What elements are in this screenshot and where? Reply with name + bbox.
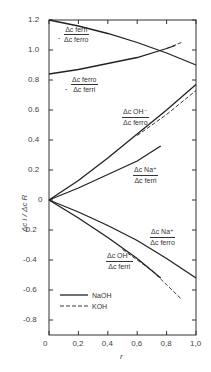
series-line: [49, 85, 196, 201]
x-tick-label: 0,8: [161, 339, 172, 348]
annotation-minus-2: -: [65, 85, 67, 92]
x-tick-label: 1,0: [190, 339, 201, 348]
y-tick-label: 0.4: [28, 135, 39, 144]
y-axis-label: Δc i / Δc R: [20, 195, 29, 232]
x-axis-label: r: [120, 352, 123, 361]
y-tick-label: -0.8: [23, 315, 37, 324]
annotation-oh-over-ferro: Δc OH⁻Δc ferro: [122, 108, 149, 126]
y-tick-label: 0: [38, 195, 42, 204]
y-tick-label: 0.8: [28, 75, 39, 84]
annotation-minus-1: -: [58, 34, 60, 41]
y-tick-label: 1.2: [28, 15, 39, 24]
legend-koh-label: KOH: [92, 303, 107, 310]
series-line: [49, 200, 161, 278]
legend-naoh-label: NaOH: [92, 292, 111, 299]
y-tick-label: 0.6: [28, 105, 39, 114]
annotation-na-over-ferri: Δc Na⁺Δc ferri: [133, 166, 158, 184]
annotation-ferri-over-ferro: Δc ferriΔc ferro: [64, 26, 89, 43]
y-tick-label: -0.6: [23, 285, 37, 294]
y-tick-label: 0.2: [28, 165, 39, 174]
x-tick-label: 0,4: [102, 339, 113, 348]
annotation-oh-over-ferri: Δc OH⁻Δc ferri: [106, 252, 133, 270]
x-tick-label: 0,2: [72, 339, 83, 348]
y-tick-label: -0.4: [23, 255, 37, 264]
y-tick-label: 1.0: [28, 45, 39, 54]
annotation-ferro-over-ferri: Δc ferroΔc ferri: [71, 76, 98, 93]
annotation-na-over-ferro: Δc Na⁺Δc ferro: [150, 228, 175, 246]
series-line: [167, 43, 182, 49]
x-tick-label: 0: [43, 339, 47, 348]
plot-frame: [49, 20, 196, 335]
x-tick-label: 0,6: [131, 339, 142, 348]
